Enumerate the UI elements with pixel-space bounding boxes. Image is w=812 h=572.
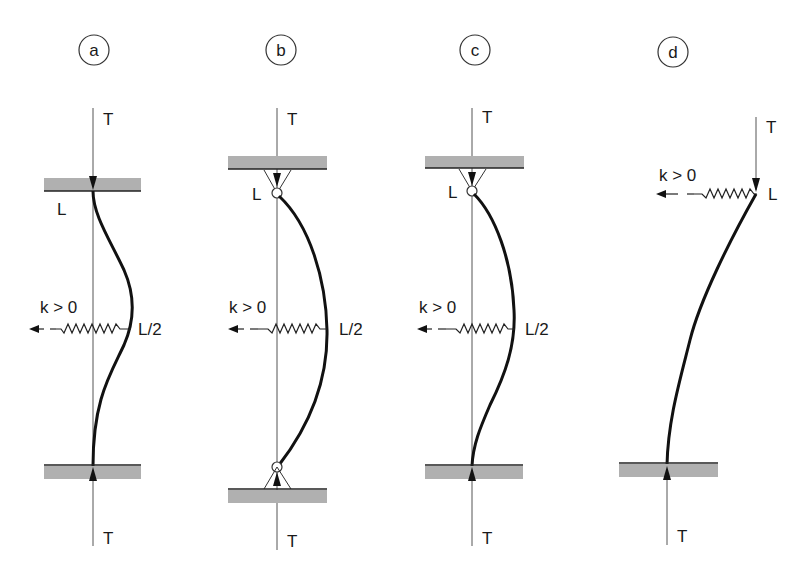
panel-b: b T L k > 0 L/2 T bbox=[228, 35, 363, 551]
spring-arrow-icon bbox=[228, 325, 238, 333]
top-point-label: L bbox=[768, 185, 777, 204]
bottom-force-label: T bbox=[103, 529, 113, 548]
top-force-arrow-icon bbox=[468, 172, 476, 186]
bottom-force-label: T bbox=[287, 532, 297, 551]
spring-position-label: L/2 bbox=[138, 320, 162, 339]
top-point-label: L bbox=[448, 183, 457, 202]
diagram-canvas: a T L k > 0 L/2 T bbox=[0, 0, 812, 572]
spring-stiffness-label: k > 0 bbox=[40, 298, 77, 317]
panel-a: a T L k > 0 L/2 T bbox=[29, 35, 162, 548]
bottom-force-label: T bbox=[677, 527, 687, 546]
spring-stiffness-label: k > 0 bbox=[659, 166, 696, 185]
top-point-label: L bbox=[252, 185, 261, 204]
bottom-force-arrow-icon bbox=[273, 472, 281, 486]
panel-d: d T L k > 0 T bbox=[619, 37, 777, 546]
spring-arrow-icon bbox=[417, 325, 427, 333]
top-force-arrow-icon bbox=[752, 178, 760, 192]
top-force-label: T bbox=[766, 118, 776, 137]
top-point-label: L bbox=[57, 200, 66, 219]
top-force-label: T bbox=[103, 110, 113, 129]
spring-arrow-icon bbox=[29, 325, 39, 333]
spring-stiffness-label: k > 0 bbox=[229, 298, 266, 317]
spring bbox=[656, 189, 757, 198]
deflected-beam bbox=[667, 194, 756, 465]
spring-position-label: L/2 bbox=[525, 320, 549, 339]
panel-label-circle: b bbox=[266, 35, 296, 65]
top-force-label: T bbox=[482, 108, 492, 127]
spring bbox=[417, 324, 515, 333]
panel-label: c bbox=[471, 41, 480, 60]
panel-label: a bbox=[89, 41, 99, 60]
top-force-arrow-icon bbox=[273, 173, 281, 187]
panel-label: d bbox=[668, 43, 677, 62]
top-force-label: T bbox=[287, 110, 297, 129]
panel-label-circle: d bbox=[658, 37, 688, 67]
bottom-force-label: T bbox=[482, 529, 492, 548]
panel-label-circle: c bbox=[460, 35, 490, 65]
spring-arrow-icon bbox=[656, 190, 666, 198]
panel-c: c T L k > 0 L/2 T bbox=[417, 35, 549, 548]
spring-position-label: L/2 bbox=[339, 320, 363, 339]
panel-label: b bbox=[276, 41, 285, 60]
panel-label-circle: a bbox=[79, 35, 109, 65]
spring bbox=[29, 324, 131, 333]
spring-stiffness-label: k > 0 bbox=[419, 298, 456, 317]
